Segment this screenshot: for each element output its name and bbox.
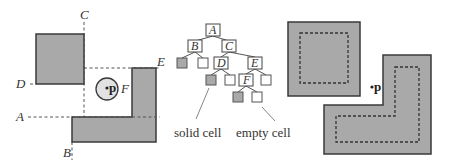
label-d: D <box>15 76 26 91</box>
tree-node-c-label: C <box>225 39 234 53</box>
solid-cell-caption: solid cell <box>174 125 222 140</box>
label-e: E <box>156 54 165 69</box>
grown-square-obstacle <box>288 22 360 96</box>
tree-node-a-label: A <box>208 23 217 37</box>
solid-cell-pointer <box>196 88 209 119</box>
leaf-solid-cell <box>177 58 187 68</box>
tree-node-e-label: E <box>250 56 259 70</box>
tree-node-b-label: B <box>191 39 199 53</box>
left-panel: p C D E F A B <box>15 7 165 160</box>
right-panel: p <box>288 22 431 154</box>
leaf-empty-cell <box>252 92 262 102</box>
bsp-tree: A B C D E F solid cell empty cell <box>174 23 291 140</box>
label-f: F <box>120 81 130 96</box>
tree-node-d-label: D <box>216 56 226 70</box>
empty-cell-caption: empty cell <box>236 125 291 140</box>
empty-cell-pointer <box>262 107 275 121</box>
label-c: C <box>80 7 89 22</box>
leaf-solid-cell <box>233 92 243 102</box>
leaf-empty-cell <box>198 58 208 68</box>
leaf-solid-cell <box>206 75 216 85</box>
square-obstacle <box>36 34 84 84</box>
label-a: A <box>15 109 24 124</box>
right-point-label: p <box>374 79 381 94</box>
bsp-diagram: p C D E F A B <box>0 0 449 167</box>
label-b: B <box>63 145 71 160</box>
leaf-empty-cell <box>261 75 271 85</box>
tree-node-f-label: F <box>242 73 251 87</box>
leaf-empty-cell <box>225 75 235 85</box>
point-label: p <box>109 80 116 95</box>
